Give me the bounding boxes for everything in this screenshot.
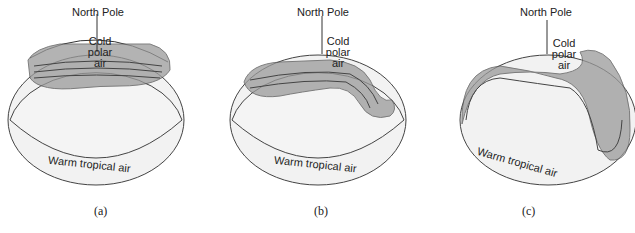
caption-c: (c): [522, 204, 535, 219]
north-pole-label: North Pole: [297, 6, 349, 18]
cold-polar-air-label: Cold polar air: [318, 36, 358, 69]
globe-b-illustration: [210, 0, 422, 233]
panel-a: North Pole Cold polar air Warm tropical …: [0, 0, 212, 233]
north-pole-label: North Pole: [72, 6, 124, 18]
north-pole-label: North Pole: [520, 6, 572, 18]
globe-c-illustration: [420, 0, 635, 233]
panel-c: North Pole Cold polar air Warm tropical …: [420, 0, 635, 233]
cold-polar-air-label: Cold polar air: [80, 36, 120, 69]
panel-b: North Pole Cold polar air Warm tropical …: [210, 0, 422, 233]
cold-polar-air-label: Cold polar air: [544, 38, 584, 71]
caption-a: (a): [94, 204, 107, 219]
caption-b: (b): [314, 204, 328, 219]
